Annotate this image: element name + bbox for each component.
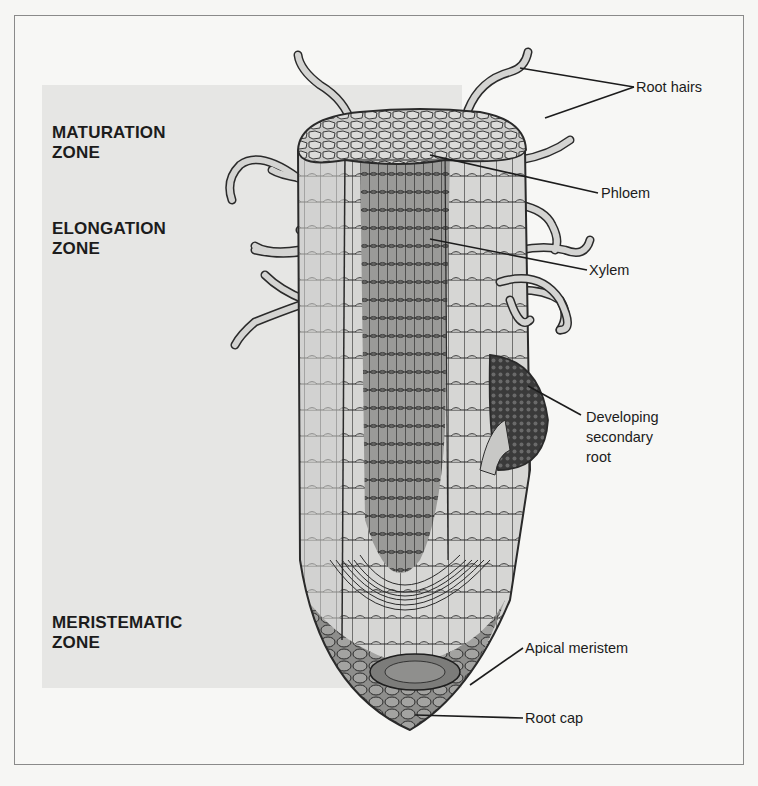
callout-text: Xylem (589, 262, 629, 279)
callout-phloem: Phloem (601, 185, 650, 202)
callout-root-hairs: Root hairs (636, 79, 702, 96)
callout-apical-meristem: Apical meristem (525, 640, 628, 657)
callout-text: Root cap (525, 710, 583, 727)
callout-text: Phloem (601, 185, 650, 202)
callout-text: Developing (586, 407, 659, 427)
root-tip-illustration (0, 0, 758, 786)
callout-developing-secondary-root: Developing secondary root (586, 407, 659, 467)
callout-xylem: Xylem (589, 262, 629, 279)
callout-text: secondary (586, 427, 659, 447)
callout-text: Root hairs (636, 79, 702, 96)
callout-text: root (586, 447, 659, 467)
callout-text: Apical meristem (525, 640, 628, 657)
callout-root-cap: Root cap (525, 710, 583, 727)
